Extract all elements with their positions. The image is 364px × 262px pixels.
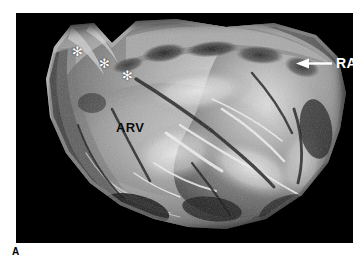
- asterisk-marker-1: ✻: [72, 45, 83, 58]
- asterisk-marker-2: ✻: [99, 57, 110, 70]
- panel-letter: A: [12, 247, 19, 257]
- asterisk-marker-3: ✻: [122, 69, 133, 82]
- specimen-photograph: ✻ ✻ ✻: [16, 13, 353, 243]
- arv-label: ARV: [116, 121, 144, 134]
- ra-label: RA: [336, 56, 357, 70]
- specimen-tissue-image: [16, 13, 353, 243]
- figure-panel: ✻ ✻ ✻ RA ARV A: [0, 0, 364, 262]
- ra-arrow-icon: [296, 58, 332, 69]
